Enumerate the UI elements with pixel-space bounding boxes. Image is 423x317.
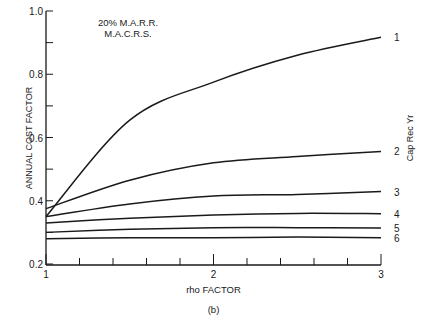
curve-label: 6 <box>394 233 400 244</box>
curve-cap-rec-yr-1 <box>46 37 381 216</box>
x-tick-label: 3 <box>378 269 384 280</box>
curve-label: 3 <box>394 187 400 198</box>
labels: 12345620% M.A.R.R.M.A.C.R.S.ANNUAL COST … <box>24 17 415 315</box>
figure-caption: (b) <box>208 304 220 315</box>
annotation-macrs: M.A.C.R.S. <box>104 28 152 39</box>
curve-cap-rec-yr-6 <box>46 237 381 239</box>
curve-cap-rec-yr-2 <box>46 151 381 208</box>
curve-label: 2 <box>394 146 400 157</box>
y-tick-label: 0.8 <box>29 69 43 80</box>
y-tick-label: 1.0 <box>29 6 43 17</box>
curve-cap-rec-yr-5 <box>46 228 381 233</box>
annotation-marr: 20% M.A.R.R. <box>98 17 158 28</box>
annual-cost-factor-chart: 0.20.40.60.81.0123 12345620% M.A.R.R.M.A… <box>0 0 423 317</box>
curve-cap-rec-yr-4 <box>46 213 381 223</box>
y-axis-label: ANNUAL COST FACTOR <box>24 86 34 189</box>
x-tick-label: 1 <box>43 269 49 280</box>
curve-label: 1 <box>394 32 400 43</box>
x-tick-label: 2 <box>211 269 217 280</box>
y-tick-label: 0.4 <box>29 196 43 207</box>
curves <box>46 37 381 238</box>
curve-label: 4 <box>394 209 400 220</box>
y-tick-label: 0.2 <box>29 259 43 270</box>
right-axis-label: Cap Rec Yr <box>405 115 415 161</box>
x-axis-label: rho FACTOR <box>186 284 241 295</box>
